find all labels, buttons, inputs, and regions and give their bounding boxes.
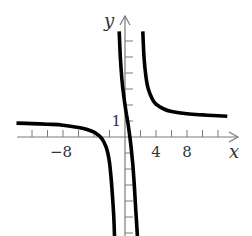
function-curves [17,31,228,236]
x-tick-label: −8 [50,143,72,161]
y-axis-label: y [103,10,115,31]
function-graph: −8481 x y [0,0,252,236]
x-tick-label: 8 [182,143,192,161]
x-axis-label: x [229,141,239,162]
y-tick-label: 1 [111,112,121,130]
left-branch-curve [17,123,115,236]
middle-branch-curve [119,31,137,236]
x-tick-label: 4 [151,143,161,161]
right-branch-curve [143,31,228,116]
